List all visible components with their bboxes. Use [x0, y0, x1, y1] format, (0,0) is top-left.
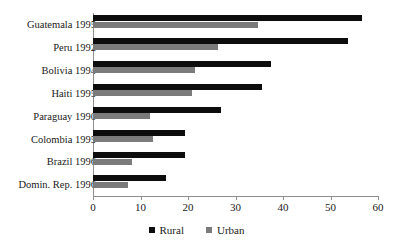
plot-area	[93, 13, 378, 196]
bar-urban	[93, 159, 132, 165]
bar-urban	[93, 67, 195, 73]
bar-rural	[93, 38, 348, 44]
category-label: Bolivia 1994	[0, 65, 96, 76]
category-label: Guatemala 1995	[0, 19, 96, 30]
x-axis-tick-label: 0	[78, 201, 108, 213]
bar-rural	[93, 107, 221, 113]
chart-legend: Rural Urban	[0, 224, 393, 236]
x-axis-tick	[93, 196, 94, 200]
rural-swatch-icon	[149, 227, 155, 233]
bar-rural	[93, 152, 185, 158]
bar-urban	[93, 136, 153, 142]
bar-chart: 0102030405060 Guatemala 1995Peru 1992Bol…	[0, 0, 393, 246]
x-axis-tick-label: 20	[173, 201, 203, 213]
bar-rural	[93, 84, 262, 90]
urban-swatch-icon	[206, 227, 212, 233]
bar-urban	[93, 22, 258, 28]
bar-rural	[93, 61, 271, 67]
bar-rural	[93, 175, 166, 181]
bar-urban	[93, 113, 150, 119]
x-axis-tick-label: 40	[268, 201, 298, 213]
x-axis-tick	[188, 196, 189, 200]
x-axis-tick	[141, 196, 142, 200]
x-axis-tick	[331, 196, 332, 200]
category-label: Domin. Rep. 1996	[0, 179, 96, 190]
category-label: Colombia 1995	[0, 134, 96, 145]
legend-item-rural: Rural	[149, 224, 184, 236]
x-axis-tick	[236, 196, 237, 200]
bar-urban	[93, 44, 218, 50]
category-label: Brazil 1996	[0, 156, 96, 167]
bar-urban	[93, 182, 128, 188]
legend-label-rural: Rural	[160, 224, 184, 236]
x-axis-tick	[283, 196, 284, 200]
legend-item-urban: Urban	[206, 224, 245, 236]
x-axis-tick-label: 30	[221, 201, 251, 213]
category-label: Paraguay 1990	[0, 111, 96, 122]
x-axis-tick-label: 50	[316, 201, 346, 213]
x-axis-tick-label: 10	[126, 201, 156, 213]
bar-rural	[93, 15, 362, 21]
x-axis-tick	[378, 196, 379, 200]
bar-rural	[93, 130, 185, 136]
legend-label-urban: Urban	[217, 224, 245, 236]
category-label: Peru 1992	[0, 42, 96, 53]
x-axis-tick-label: 60	[363, 201, 393, 213]
category-label: Haiti 1995	[0, 88, 96, 99]
bar-urban	[93, 90, 192, 96]
